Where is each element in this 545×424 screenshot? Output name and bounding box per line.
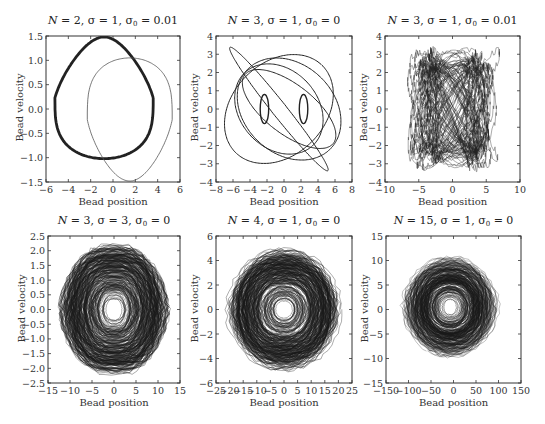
x-tick-label: 100 xyxy=(489,385,507,396)
y-tick-label: 10 xyxy=(371,255,383,266)
orbit-curves xyxy=(400,256,500,358)
x-tick-label: 50 xyxy=(470,385,482,396)
x-tick-label: −50 xyxy=(421,385,441,396)
y-tick-label: −15 xyxy=(363,378,383,389)
plot-area: −150−100−50050100150151050−5−10−15 xyxy=(0,0,545,424)
y-tick-label: −5 xyxy=(369,329,383,340)
y-tick-label: 5 xyxy=(377,280,383,291)
y-tick-label: 0 xyxy=(377,304,383,315)
y-tick-label: 15 xyxy=(371,231,383,242)
x-tick-label: 150 xyxy=(512,385,530,396)
y-tick-label: −10 xyxy=(363,353,383,364)
x-tick-label: 0 xyxy=(450,385,456,396)
x-tick-label: −100 xyxy=(395,385,421,396)
